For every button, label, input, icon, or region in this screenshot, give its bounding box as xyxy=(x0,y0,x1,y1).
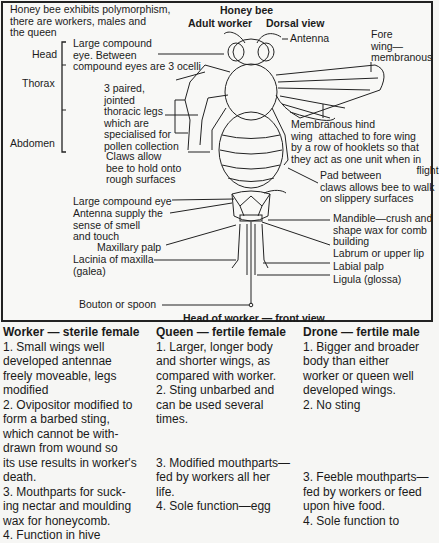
caste-point: 4. Sole function to xyxy=(303,514,439,529)
label-labrum: Labrum or upper lip xyxy=(333,248,424,260)
subtitle-dorsal-view: Dorsal view xyxy=(266,18,324,30)
caste-point: 2. No sting xyxy=(303,398,439,471)
caste-heading: Drone — fertile male xyxy=(303,325,439,340)
caste-queen: Queen — fertile female 1. Larger, longer… xyxy=(156,325,296,514)
label-antenna: Antenna xyxy=(290,33,329,45)
caste-heading: Worker — sterile female xyxy=(3,325,143,340)
intro-text: Honey bee exhibits polymorphism, there a… xyxy=(10,4,171,39)
caste-point: 2. Ovipositor modified to form a barbed … xyxy=(3,398,143,485)
label-front-compound-eye: Large compound eye xyxy=(73,196,172,208)
label-fore-wing: Fore wing— membranous xyxy=(371,29,432,64)
caste-worker: Worker — sterile female 1. Small wings w… xyxy=(3,325,143,543)
caste-point: 4. Function in hive xyxy=(3,528,143,543)
caste-point: 3. Feeble mouthparts— fed by workers or … xyxy=(303,470,439,514)
label-labial-palp: Labial palp xyxy=(333,261,384,273)
caste-point: 1. Larger, longer body and shorter wings… xyxy=(156,340,296,384)
label-lacinia: Lacinia of maxilla (galea) xyxy=(73,254,154,277)
label-hind-wing: Membranous hind wing attached to fore wi… xyxy=(291,119,439,177)
region-abdomen: Abdomen xyxy=(10,138,55,150)
front-view-caption: Head of worker — front view xyxy=(183,313,325,325)
caste-point: 3. Modified mouthparts— fed by workers a… xyxy=(156,456,296,500)
region-head: Head xyxy=(32,49,57,61)
label-front-antenna: Antenna supply the sense of smell and to… xyxy=(73,208,163,243)
caste-point: 2. Sting unbarbed and can be used severa… xyxy=(156,383,296,456)
label-pad: Pad between claws allows bee to walk on … xyxy=(320,170,434,205)
caste-point: 1. Bigger and broader body than either w… xyxy=(303,340,439,398)
caste-heading: Queen — fertile female xyxy=(156,325,296,340)
label-ligula: Ligula (glossa) xyxy=(333,274,401,286)
label-bouton: Bouton or spoon xyxy=(79,299,156,311)
label-thoracic-legs: 3 paired, jointed thoracic legs which ar… xyxy=(104,83,179,152)
caste-point: 1. Small wings well developed antennae f… xyxy=(3,340,143,398)
caste-point: 3. Mouthparts for suck- ing nectar and m… xyxy=(3,485,143,529)
region-thorax: Thorax xyxy=(22,78,55,90)
label-maxillary-palp: Maxillary palp xyxy=(97,242,161,254)
caste-drone: Drone — fertile male 1. Bigger and broad… xyxy=(303,325,439,528)
caste-point: 4. Sole function—egg xyxy=(156,499,296,514)
label-claws: Claws allow bee to hold onto rough surfa… xyxy=(106,151,181,186)
subtitle-adult-worker: Adult worker xyxy=(188,18,252,30)
label-compound-eye: Large compound eye. Between compound eye… xyxy=(73,38,201,73)
label-mandible: Mandible—crush and shape wax for comb bu… xyxy=(333,213,432,248)
diagram-title: Honey bee xyxy=(220,5,273,17)
